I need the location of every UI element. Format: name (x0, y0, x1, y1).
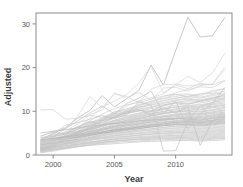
y-axis-title: Adjusted (3, 68, 13, 107)
chart-container: 200020052010 0102030 Year Adjusted (0, 0, 243, 187)
x-tick-label: 2000 (45, 160, 62, 169)
x-tick-label: 2005 (106, 160, 123, 169)
spaghetti-line-chart: 200020052010 0102030 Year Adjusted (0, 0, 243, 187)
y-tick-label: 10 (22, 107, 30, 116)
x-axis-title: Year (124, 174, 144, 184)
y-tick-label: 0 (26, 151, 30, 160)
y-tick-label: 20 (22, 63, 30, 72)
x-tick-label: 2010 (167, 160, 184, 169)
y-tick-label: 30 (22, 20, 30, 29)
